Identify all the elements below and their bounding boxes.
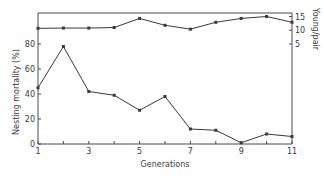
y-tick-label: 20 — [25, 115, 35, 124]
data-point-marker — [87, 90, 90, 93]
data-point-marker — [265, 15, 268, 18]
data-point-marker — [138, 109, 141, 112]
data-point-marker — [164, 24, 167, 27]
data-point-marker — [214, 21, 217, 24]
data-point-marker — [113, 94, 116, 97]
y-tick-label: 0 — [30, 140, 35, 149]
x-tick-label: 9 — [239, 147, 244, 156]
y-axis-label-left: Nesting mortality (%) — [12, 49, 21, 135]
data-point-marker — [189, 28, 192, 31]
data-point-marker — [87, 27, 90, 30]
data-point-marker — [62, 45, 65, 48]
y2-tick-label: 5 — [295, 40, 300, 49]
plot-frame — [38, 13, 292, 144]
data-point-marker — [37, 86, 40, 89]
x-axis-label: Generations — [141, 160, 190, 169]
data-point-marker — [62, 27, 65, 30]
data-point-marker — [164, 95, 167, 98]
y2-tick-label: 10 — [295, 26, 305, 35]
data-point-marker — [291, 21, 294, 24]
y-axis-right: 51015 — [289, 13, 305, 50]
data-point-marker — [37, 27, 40, 30]
data-series — [37, 15, 294, 144]
y2-tick-label: 15 — [295, 13, 305, 22]
y-axis-left: 020406080 — [25, 40, 41, 149]
y-tick-label: 40 — [25, 90, 35, 99]
data-point-marker — [214, 129, 217, 132]
y-axis-label-right: Young/pair — [311, 7, 320, 51]
mortality-line — [38, 47, 292, 143]
x-axis: 1357911 — [35, 141, 297, 156]
axes-box — [38, 13, 292, 144]
x-tick-label: 1 — [35, 147, 40, 156]
x-tick-label: 3 — [86, 147, 91, 156]
x-tick-label: 5 — [137, 147, 142, 156]
x-tick-label: 11 — [287, 147, 297, 156]
young-per-pair-line — [38, 17, 292, 30]
data-point-marker — [240, 17, 243, 20]
data-point-marker — [189, 128, 192, 131]
data-point-marker — [113, 26, 116, 29]
y-tick-label: 60 — [25, 65, 35, 74]
x-tick-label: 7 — [188, 147, 193, 156]
data-point-marker — [265, 133, 268, 136]
data-point-marker — [291, 135, 294, 138]
line-chart: 020406080 51015 1357911 Generations Nest… — [0, 0, 324, 178]
data-point-marker — [138, 17, 141, 20]
data-point-marker — [240, 141, 243, 144]
y-tick-label: 80 — [25, 40, 35, 49]
